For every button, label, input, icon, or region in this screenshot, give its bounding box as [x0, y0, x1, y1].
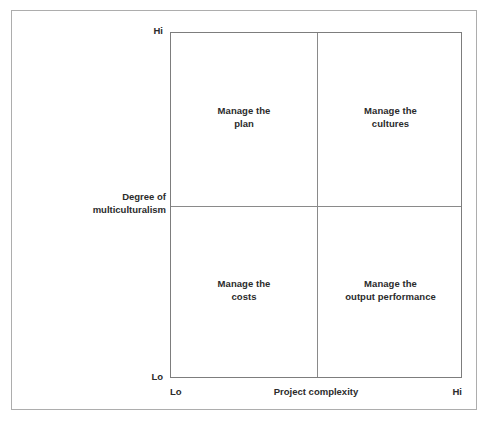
- x-axis-label-row: Lo Project complexity Hi: [170, 386, 462, 400]
- quadrant-top-right-label: Manage the cultures: [364, 105, 417, 130]
- quadrant-top-right-line-1: Manage the: [364, 105, 417, 116]
- quadrant-top-left-label: Manage the plan: [218, 105, 271, 130]
- quadrant-top-left-line-1: Manage the: [218, 105, 271, 116]
- y-axis-title-line-2: multiculturalism: [60, 204, 166, 217]
- y-axis-tick-low: Lo: [120, 371, 163, 382]
- quadrant-matrix-figure: Hi Lo Degree of multiculturalism Manage …: [0, 0, 488, 423]
- quadrant-top-right-line-2: cultures: [364, 118, 417, 131]
- y-axis-tick-high: Hi: [120, 25, 163, 36]
- quadrant-bottom-right: Manage the output performance: [318, 207, 463, 379]
- quadrant-bottom-right-label: Manage the output performance: [345, 278, 436, 303]
- y-axis-title-line-1: Degree of: [122, 191, 166, 202]
- y-axis-title: Degree of multiculturalism: [60, 191, 166, 216]
- quadrant-bottom-right-line-1: Manage the: [364, 278, 417, 289]
- x-axis-tick-high: Hi: [453, 386, 463, 397]
- quadrant-bottom-left-line-2: costs: [218, 291, 271, 304]
- quadrant-top-right: Manage the cultures: [318, 33, 463, 206]
- quadrant-bottom-left: Manage the costs: [171, 207, 317, 379]
- quadrant-bottom-right-line-2: output performance: [345, 291, 436, 304]
- quadrant-bottom-left-label: Manage the costs: [218, 278, 271, 303]
- quadrant-bottom-left-line-1: Manage the: [218, 278, 271, 289]
- x-axis-title: Project complexity: [170, 386, 462, 397]
- quadrant-top-left: Manage the plan: [171, 33, 317, 206]
- matrix-plot-area: Manage the plan Manage the cultures Mana…: [170, 32, 462, 378]
- quadrant-top-left-line-2: plan: [218, 118, 271, 131]
